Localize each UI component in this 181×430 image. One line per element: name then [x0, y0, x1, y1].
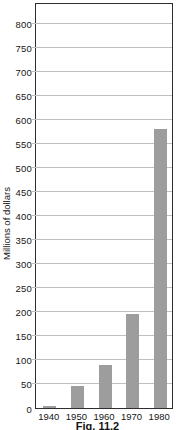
gridline-200 — [32, 311, 172, 312]
gridline-700 — [32, 71, 172, 72]
y-tick-label-600: 600 — [16, 115, 32, 126]
plot-area — [35, 3, 173, 409]
gridline-550 — [32, 143, 172, 144]
gridline-500 — [32, 167, 172, 168]
gridline-650 — [32, 95, 172, 96]
y-tick-label-800: 800 — [16, 19, 32, 30]
y-axis-tick-labels: 0501001502002503003504004505005506006507… — [0, 0, 33, 430]
y-tick-label-550: 550 — [16, 139, 32, 150]
y-tick-label-450: 450 — [16, 187, 32, 198]
y-tick-label-250: 250 — [16, 283, 32, 294]
gridline-300 — [32, 263, 172, 264]
y-tick-label-100: 100 — [16, 355, 32, 366]
gridline-450 — [32, 191, 172, 192]
y-tick-label-350: 350 — [16, 235, 32, 246]
figure-caption: Fig. 11.2 — [28, 420, 167, 430]
gridline-350 — [32, 239, 172, 240]
y-tick-label-300: 300 — [16, 259, 32, 270]
y-tick-label-650: 650 — [16, 91, 32, 102]
gridline-600 — [32, 119, 172, 120]
y-tick-label-150: 150 — [16, 331, 32, 342]
bar-1940 — [43, 406, 56, 408]
bar-chart-figure: Millions of dollars 05010015020025030035… — [0, 0, 181, 430]
gridline-100 — [32, 359, 172, 360]
bar-1960 — [99, 365, 112, 408]
gridline-150 — [32, 335, 172, 336]
y-tick-label-400: 400 — [16, 211, 32, 222]
y-tick-label-50: 50 — [21, 379, 32, 390]
gridline-750 — [32, 47, 172, 48]
y-tick-label-750: 750 — [16, 43, 32, 54]
y-tick-label-500: 500 — [16, 163, 32, 174]
gridline-800 — [32, 23, 172, 24]
bar-1950 — [71, 386, 84, 408]
gridline-400 — [32, 215, 172, 216]
y-tick-label-200: 200 — [16, 307, 32, 318]
bar-1970 — [126, 314, 139, 408]
bar-1980 — [154, 129, 167, 408]
gridline-250 — [32, 287, 172, 288]
y-tick-label-700: 700 — [16, 67, 32, 78]
